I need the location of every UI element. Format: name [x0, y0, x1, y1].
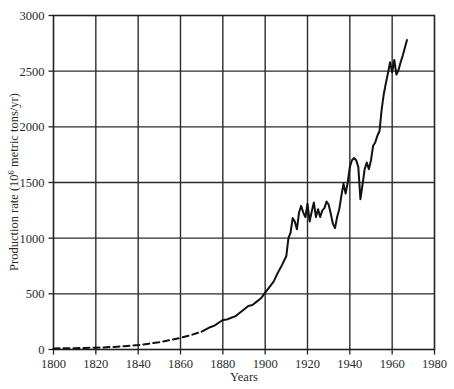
- x-tick-label: 1820: [83, 357, 108, 371]
- y-axis-title: Production rate (106 metric tons/yr): [6, 93, 21, 271]
- x-tick-label: 1960: [380, 357, 405, 371]
- y-tick-label: 1500: [20, 176, 45, 190]
- x-tick-label: 1920: [295, 357, 320, 371]
- chart-figure: 1800182018401860188019001920194019601980…: [0, 0, 454, 389]
- production-rate-line-chart: 1800182018401860188019001920194019601980…: [0, 0, 454, 389]
- chart-background: [0, 0, 454, 389]
- y-tick-label: 0: [38, 343, 44, 357]
- y-tick-label: 1000: [20, 232, 45, 246]
- y-tick-label: 500: [26, 287, 45, 301]
- y-axis-title-text: Production rate (106 metric tons/yr): [6, 93, 21, 271]
- x-tick-label: 1900: [253, 357, 278, 371]
- x-tick-label: 1880: [210, 357, 235, 371]
- y-title-suffix: metric tons/yr): [7, 93, 21, 170]
- x-tick-label: 1860: [168, 357, 193, 371]
- x-tick-label: 1840: [126, 357, 151, 371]
- y-tick-label: 2000: [20, 120, 45, 134]
- x-tick-label: 1940: [337, 357, 362, 371]
- x-tick-label: 1980: [422, 357, 447, 371]
- y-title-prefix: Production rate (10: [7, 174, 21, 271]
- x-axis-title: Years: [230, 370, 258, 384]
- y-tick-label: 2500: [20, 65, 45, 79]
- y-tick-label: 3000: [20, 9, 45, 23]
- x-tick-label: 1800: [41, 357, 66, 371]
